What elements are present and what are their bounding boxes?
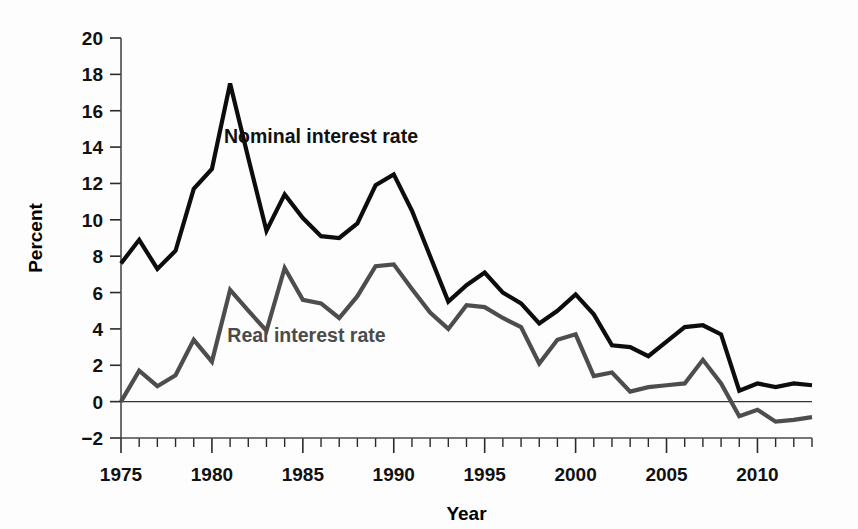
x-tick-label: 1975 <box>100 464 143 485</box>
x-axis-title: Year <box>446 503 487 524</box>
x-tick-label: 1990 <box>373 464 415 485</box>
x-tick-label: 1995 <box>464 464 507 485</box>
y-tick-label: 12 <box>82 173 103 194</box>
x-tick-label: 2005 <box>645 464 688 485</box>
y-axis-title: Percent <box>25 202 46 272</box>
y-axis-tick-labels: 20181614121086420−2 <box>81 28 103 449</box>
y-tick-label: 14 <box>82 137 104 158</box>
series-label-nominal: Nominal interest rate <box>224 125 418 147</box>
y-axis-ticks <box>110 38 121 438</box>
y-tick-label: 10 <box>82 210 103 231</box>
x-tick-label: 2000 <box>554 464 596 485</box>
y-tick-label: 0 <box>92 392 103 413</box>
y-tick-label: 4 <box>92 319 103 340</box>
y-tick-label: 16 <box>82 101 103 122</box>
y-tick-label: −2 <box>81 428 103 449</box>
y-tick-label: 18 <box>82 64 103 85</box>
x-axis-ticks <box>121 438 812 453</box>
interest-rate-chart: 20181614121086420−2 19751980198519901995… <box>0 0 858 529</box>
x-tick-label: 1980 <box>191 464 233 485</box>
x-tick-label: 2010 <box>736 464 778 485</box>
y-tick-label: 6 <box>92 283 103 304</box>
y-tick-label: 2 <box>92 355 103 376</box>
series-label-real: Real interest rate <box>227 324 385 346</box>
y-tick-label: 20 <box>82 28 103 49</box>
x-tick-label: 1985 <box>282 464 325 485</box>
y-tick-label: 8 <box>92 246 103 267</box>
x-axis-tick-labels: 19751980198519901995200020052010 <box>100 464 779 485</box>
chart-svg: 20181614121086420−2 19751980198519901995… <box>0 0 858 529</box>
